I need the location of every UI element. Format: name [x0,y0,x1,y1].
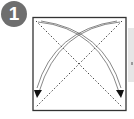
fold-diagram [0,0,134,119]
